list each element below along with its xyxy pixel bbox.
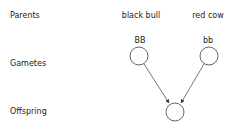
offspring-circle [166, 103, 184, 121]
gamete-1-circle [130, 47, 148, 65]
cross-diagram [0, 0, 246, 131]
arrow-gamete-1-to-offspring [144, 64, 169, 103]
arrow-gamete-2-to-offspring [181, 64, 204, 103]
gamete-2-circle [200, 47, 218, 65]
